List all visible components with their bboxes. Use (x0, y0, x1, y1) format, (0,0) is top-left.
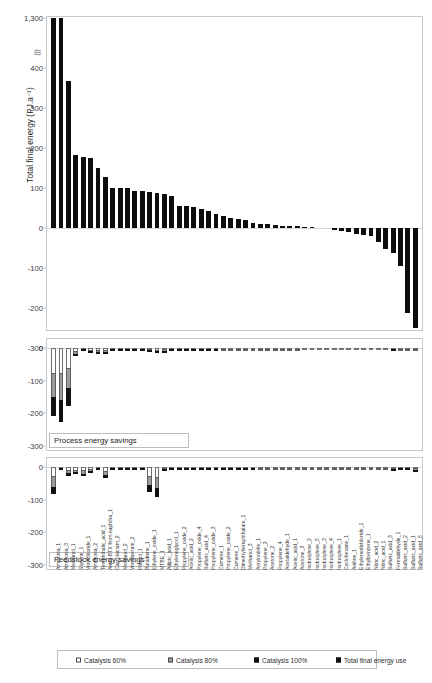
stacked-bar (81, 348, 86, 350)
segment-catalysis-80 (354, 468, 359, 470)
stacked-bar (295, 348, 300, 350)
stacked-bar (221, 348, 226, 350)
stacked-bar (140, 348, 145, 350)
stacked-bar (228, 467, 233, 469)
y-tick-mark (43, 413, 46, 414)
stacked-bar (125, 348, 130, 350)
stacked-bar (214, 467, 219, 469)
segment-catalysis-60 (324, 348, 329, 350)
segment-catalysis-100 (66, 388, 71, 406)
segment-catalysis-100 (51, 397, 56, 416)
bar (302, 227, 307, 228)
legend-item: Total final energy use (336, 656, 406, 663)
stacked-bar (96, 467, 101, 469)
bar (295, 226, 300, 228)
y-tick-mark (43, 499, 46, 500)
stacked-bar (199, 467, 204, 469)
segment-catalysis-100 (243, 468, 248, 470)
stacked-bar (398, 348, 403, 350)
segment-catalysis-100 (155, 488, 160, 497)
segment-catalysis-100 (88, 471, 93, 473)
x-tick-label: Methanol_3 (247, 543, 253, 570)
stacked-bar (96, 348, 101, 353)
stacked-bar (125, 467, 130, 469)
x-tick-label: Dimethylterephthalate_1 (240, 515, 246, 570)
segment-catalysis-80 (258, 349, 263, 351)
bar (103, 177, 108, 228)
segment-catalysis-80 (317, 468, 322, 470)
stacked-bar (155, 348, 160, 352)
stacked-bar (324, 348, 329, 350)
x-tick-label: Styrene_1 (78, 547, 84, 570)
stacked-bar (258, 467, 263, 469)
x-tick-label: Ammonia_1 (55, 543, 61, 570)
x-tick-label: Isobutylene_3 (321, 538, 327, 570)
y-tick-mark (43, 467, 46, 468)
bar (287, 226, 292, 228)
stacked-bar (280, 467, 285, 469)
segment-catalysis-60 (354, 348, 359, 350)
x-tick-label: Methanol_1 (70, 543, 76, 570)
segment-catalysis-100 (132, 468, 137, 470)
segment-catalysis-100 (96, 468, 101, 470)
stacked-bar (369, 467, 374, 469)
stacked-bar (73, 467, 78, 474)
segment-catalysis-100 (140, 349, 145, 351)
segment-catalysis-80 (339, 468, 344, 470)
segment-catalysis-100 (110, 349, 115, 351)
bar (140, 191, 145, 228)
stacked-bar (391, 467, 396, 470)
stacked-bar (398, 467, 403, 469)
bar (96, 168, 101, 228)
stacked-bar (295, 467, 300, 469)
segment-catalysis-100 (177, 468, 182, 470)
legend-label: Total final energy use (344, 656, 406, 663)
segment-catalysis-80 (295, 468, 300, 470)
stacked-bar (132, 467, 137, 469)
segment-catalysis-60 (383, 348, 388, 350)
stacked-bar (162, 348, 167, 352)
stacked-bar (346, 467, 351, 469)
x-tick-label: Ammonia_3 (63, 543, 69, 570)
segment-catalysis-80 (346, 468, 351, 470)
stacked-bar (236, 467, 241, 469)
bar (155, 193, 160, 228)
stacked-bar (265, 348, 270, 350)
x-tick-label: Methanol_2 (122, 543, 128, 570)
x-tick-label: Terephthalic_acid_1 (100, 525, 106, 570)
bar (398, 228, 403, 266)
stacked-bar (376, 348, 381, 350)
x-tick-label: Propylene_3 (262, 541, 268, 570)
stacked-bar (354, 348, 359, 350)
y-tick-mark (43, 380, 46, 381)
bar (391, 228, 396, 253)
stacked-bar (184, 467, 189, 469)
x-tick-label: Ammonia_2 (92, 543, 98, 570)
segment-catalysis-100 (51, 487, 56, 495)
x-tick-label: Propylene_oxide_2 (181, 526, 187, 570)
stacked-bar (206, 467, 211, 469)
stacked-bar (103, 348, 108, 354)
segment-catalysis-100 (199, 468, 204, 470)
segment-catalysis-80 (273, 468, 278, 470)
bar (199, 209, 204, 228)
stacked-bar (317, 467, 322, 469)
bar (110, 188, 115, 228)
panel-caption-process: Process energy savings (49, 433, 189, 448)
segment-catalysis-100 (191, 349, 196, 351)
x-tick-label: Cyclohexane_1 (343, 535, 349, 570)
segment-catalysis-100 (73, 472, 78, 474)
x-tick-label: Ethylbenzene_1 (365, 533, 371, 570)
x-tick-label: Propylene_oxide_2 (225, 526, 231, 570)
x-tick-label: Sulfuric_acid_3 (387, 535, 393, 570)
stacked-bar (132, 348, 137, 350)
x-tick-label: Isobutylene_1 (336, 538, 342, 570)
stacked-bar (88, 467, 93, 473)
legend-item: Catalysis 80% (168, 656, 218, 663)
segment-catalysis-100 (199, 349, 204, 351)
stacked-bar (251, 467, 256, 469)
x-tick-label: Phenol_1 (137, 548, 143, 570)
x-tick-label: Ethyleneglycol_1 (173, 531, 179, 570)
segment-catalysis-100 (184, 349, 189, 351)
segment-catalysis-80 (287, 468, 292, 470)
